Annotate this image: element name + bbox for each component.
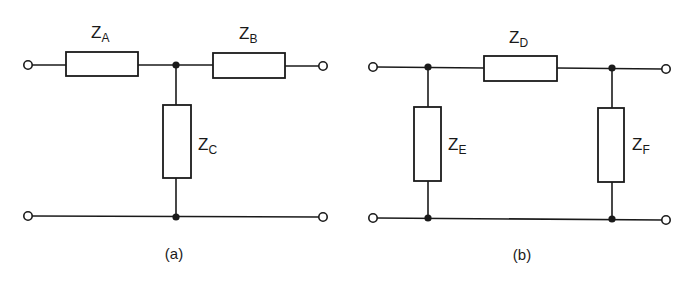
terminal-output-bottom — [319, 213, 327, 221]
junction-node — [424, 63, 431, 70]
junction-node — [172, 61, 179, 68]
junction-node — [608, 215, 615, 222]
circuit-a-t-network: ZA ZB ZC (a) — [24, 23, 327, 262]
terminal-input-bottom — [24, 212, 32, 220]
terminal-output-bottom — [662, 216, 670, 224]
impedance-za — [66, 52, 138, 76]
terminal-input-top — [369, 63, 377, 71]
caption-a: (a) — [165, 245, 183, 262]
impedance-zf — [598, 108, 624, 182]
circuit-figure: ZA ZB ZC (a) ZD ZE ZF (b) — [0, 0, 696, 281]
impedance-zd — [484, 56, 557, 81]
label-ze: ZE — [448, 135, 466, 157]
impedance-zc — [163, 105, 191, 178]
circuit-b-pi-network: ZD ZE ZF (b) — [369, 28, 670, 263]
label-zb: ZB — [239, 24, 257, 46]
terminal-input-top — [24, 61, 32, 69]
junction-node — [172, 213, 179, 220]
label-za: ZA — [91, 23, 109, 45]
junction-node — [424, 214, 431, 221]
impedance-zb — [213, 53, 285, 78]
terminal-output-top — [662, 65, 670, 73]
junction-node — [608, 64, 615, 71]
label-zc: ZC — [198, 135, 217, 157]
terminal-input-bottom — [369, 214, 377, 222]
terminal-output-top — [319, 62, 327, 70]
impedance-ze — [414, 107, 441, 181]
label-zd: ZD — [509, 28, 528, 50]
wire — [377, 218, 662, 220]
caption-b: (b) — [513, 246, 531, 263]
label-zf: ZF — [632, 135, 650, 157]
